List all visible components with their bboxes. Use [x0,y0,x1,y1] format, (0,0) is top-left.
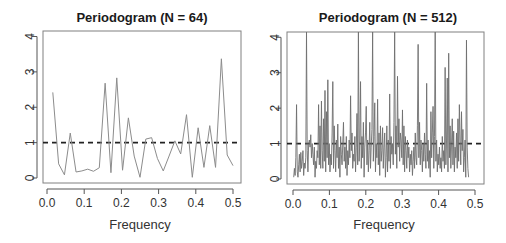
y-tick-label: 3 [23,68,37,75]
x-axis: 0.00.10.20.30.40.5 [285,190,484,211]
y-tick-label: 4 [23,33,37,40]
y-tick-label: 0 [23,174,37,181]
y-tick-label: 1 [23,139,37,146]
chart-title: Periodogram (N = 512) [319,10,457,25]
plot-frame [43,31,241,183]
panel-n512: Periodogram (N = 512) 0.00.10.20.30.40.5… [268,10,484,232]
x-tick-label: 0.1 [321,197,338,211]
x-tick-label: 0.0 [285,197,302,211]
y-tick-label: 4 [268,34,282,41]
x-axis: 0.00.10.20.30.40.5 [39,189,242,210]
y-axis: 01234 [23,33,37,182]
chart-title: Periodogram (N = 64) [76,10,207,25]
x-tick-label: 0.4 [187,196,204,210]
panel-n64: Periodogram (N = 64) 0.00.10.20.30.40.5 … [23,10,242,232]
x-tick-label: 0.5 [467,197,484,211]
x-tick-label: 0.1 [76,196,93,210]
x-axis-label: Frequency [109,217,171,232]
y-tick-label: 3 [268,69,282,76]
series-line [294,32,469,177]
x-tick-label: 0.2 [357,197,374,211]
y-tick-label: 1 [268,140,282,147]
periodogram-figure: Periodogram (N = 64) 0.00.10.20.30.40.5 … [0,0,506,243]
y-tick-label: 0 [268,175,282,182]
y-axis: 01234 [268,34,282,183]
series-line [53,59,233,177]
x-tick-label: 0.5 [225,196,242,210]
x-tick-label: 0.3 [394,197,411,211]
x-tick-label: 0.2 [113,196,130,210]
x-axis-label: Frequency [353,217,415,232]
y-tick-label: 2 [268,104,282,111]
x-tick-label: 0.0 [39,196,56,210]
x-tick-label: 0.4 [430,197,447,211]
y-tick-label: 2 [23,104,37,111]
x-tick-label: 0.3 [150,196,167,210]
